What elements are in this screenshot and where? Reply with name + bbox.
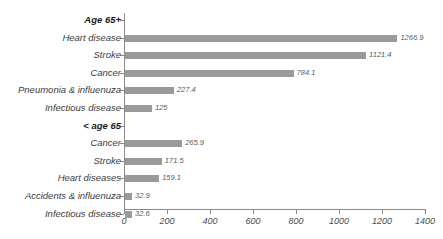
group-header-row: Age 65+	[0, 12, 443, 30]
bar-value-label: 125	[155, 103, 168, 112]
bar	[125, 158, 162, 165]
category-label: Pneumonia & influenuza	[18, 84, 121, 95]
category-label: Stroke	[94, 49, 121, 60]
bar-value-label: 171.5	[165, 156, 184, 165]
bar	[125, 140, 182, 147]
bar	[125, 35, 397, 42]
bar	[125, 87, 174, 94]
bar-row: Stroke171.5	[0, 153, 443, 171]
category-label: Accidents & influenuza	[25, 190, 121, 201]
bar-value-label: 32.9	[135, 191, 150, 200]
bar-row: Heart diseases159.1	[0, 170, 443, 188]
category-label: Cancer	[90, 137, 121, 148]
category-label: Heart diseases	[58, 172, 121, 183]
bar-row: Heart disease1266.9	[0, 30, 443, 48]
group-label: < age 65	[83, 120, 121, 131]
category-label: Cancer	[90, 67, 121, 78]
bar-value-label: 32.6	[135, 209, 150, 218]
bar-value-label: 227.4	[177, 85, 196, 94]
bar	[125, 211, 132, 218]
category-label: Heart disease	[62, 32, 121, 43]
bar-value-label: 159.1	[162, 173, 181, 182]
bar-row: Pneumonia & influenuza227.4	[0, 82, 443, 100]
bar-value-label: 1266.9	[400, 33, 423, 42]
bar-row: Cancer265.9	[0, 135, 443, 153]
bar	[125, 175, 159, 182]
group-header-row: < age 65	[0, 118, 443, 136]
bar-row: Stroke1121.4	[0, 47, 443, 65]
bar-row: Accidents & influenuza32.9	[0, 188, 443, 206]
bar	[125, 70, 294, 77]
plot-area: 0200400600800100012001400 Age 65+Heart d…	[0, 0, 443, 239]
bar	[125, 105, 152, 112]
bar	[125, 52, 366, 59]
bar-value-label: 784.1	[297, 68, 316, 77]
bar-row: Infectious disease125	[0, 100, 443, 118]
category-label: Infectious disease	[45, 208, 121, 219]
bar-chart: 0200400600800100012001400 Age 65+Heart d…	[0, 0, 443, 239]
bar-row: Infectious disease32.6	[0, 206, 443, 224]
bar	[125, 193, 132, 200]
group-label: Age 65+	[84, 14, 121, 25]
bar-value-label: 265.9	[185, 138, 204, 147]
bar-value-label: 1121.4	[369, 50, 391, 59]
category-label: Infectious disease	[45, 102, 121, 113]
bar-row: Cancer784.1	[0, 65, 443, 83]
category-label: Stroke	[94, 155, 121, 166]
